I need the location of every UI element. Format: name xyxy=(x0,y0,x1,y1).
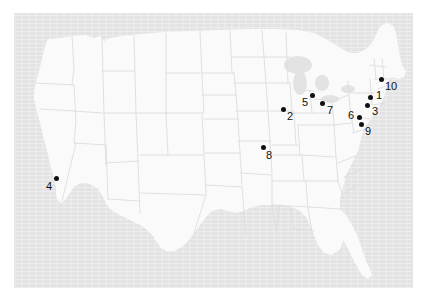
marker-label-9: 9 xyxy=(365,126,371,137)
marker-dot-3 xyxy=(365,103,370,108)
marker-dot-4 xyxy=(54,176,59,181)
marker-label-1: 1 xyxy=(376,90,382,101)
lake-superior xyxy=(284,56,312,74)
marker-label-4: 4 xyxy=(46,181,52,192)
us-landmass xyxy=(34,23,406,279)
figure-canvas: 1 2 3 4 5 6 7 8 xyxy=(0,0,428,305)
lake-michigan xyxy=(293,71,307,95)
marker-dot-6 xyxy=(357,115,362,120)
marker-label-3: 3 xyxy=(372,106,378,117)
marker-label-8: 8 xyxy=(266,150,272,161)
marker-label-10: 10 xyxy=(385,81,397,92)
marker-label-6: 6 xyxy=(348,110,354,121)
marker-dot-9 xyxy=(359,122,364,127)
marker-label-2: 2 xyxy=(287,111,293,122)
marker-label-5: 5 xyxy=(302,97,308,108)
us-map-graphic xyxy=(14,13,413,288)
lake-huron xyxy=(315,75,329,91)
marker-dot-1 xyxy=(368,95,373,100)
marker-label-7: 7 xyxy=(327,105,333,116)
marker-dot-5 xyxy=(310,93,315,98)
marker-dot-10 xyxy=(379,77,384,82)
marker-dot-8 xyxy=(261,145,266,150)
marker-dot-2 xyxy=(281,107,286,112)
us-landmass-path xyxy=(34,23,406,255)
florida-path xyxy=(338,209,372,279)
marker-dot-7 xyxy=(320,101,325,106)
